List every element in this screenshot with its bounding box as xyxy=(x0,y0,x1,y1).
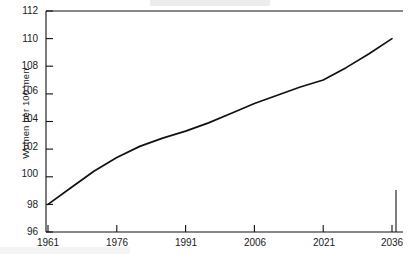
y-axis-ticks xyxy=(46,11,53,232)
axis-frame xyxy=(46,11,403,232)
data-series-line xyxy=(48,39,392,205)
x-axis-ticks xyxy=(48,225,392,232)
